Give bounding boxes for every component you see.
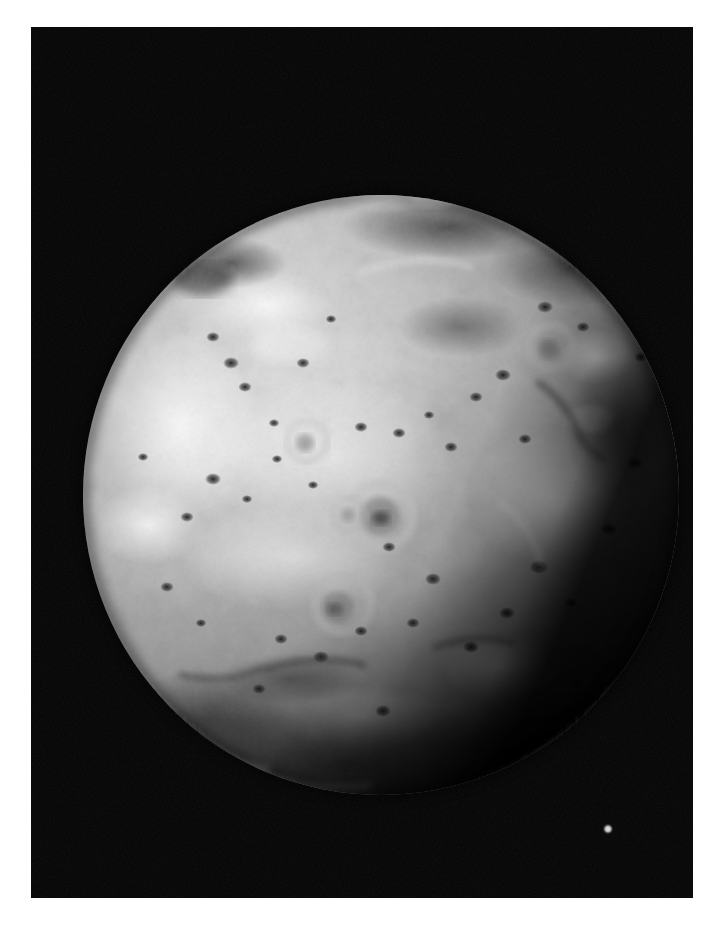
background-star: [602, 823, 614, 835]
page-root: Grayscale spacecraft photograph of Jupit…: [0, 0, 722, 926]
photograph-frame: [31, 27, 693, 898]
io-photograph-canvas: [31, 27, 693, 898]
